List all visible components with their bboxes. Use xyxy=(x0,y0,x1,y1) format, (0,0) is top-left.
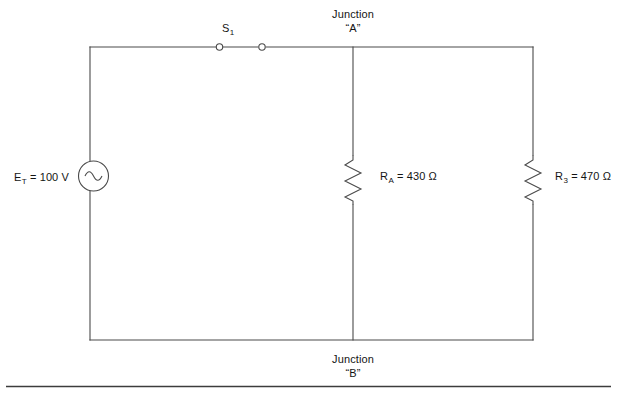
ac-source-sine-icon xyxy=(85,172,102,181)
junction-a-letter: “A” xyxy=(303,21,403,35)
switch-designator-subscript: 1 xyxy=(229,28,234,37)
resistor-a-zigzag-symbol xyxy=(345,155,361,205)
resistor-a-designator: R xyxy=(380,170,388,182)
junction-b-name: Junction xyxy=(303,352,403,366)
resistor-b-designator: R xyxy=(555,170,563,182)
resistor-b-designator-subscript: 3 xyxy=(563,176,568,185)
circuit-schematic-svg xyxy=(0,0,617,402)
circuit-diagram: Junction “A” Junction “B” S1 ET = 100 V … xyxy=(0,0,617,402)
resistor-a-equals: = xyxy=(394,170,407,182)
switch-terminal-right-icon[interactable] xyxy=(259,44,265,50)
resistor-b-zigzag-symbol xyxy=(525,155,541,205)
source-equals: = xyxy=(27,171,40,183)
resistor-a-designator-subscript: A xyxy=(388,176,394,185)
junction-a-label: Junction “A” xyxy=(303,7,403,35)
source-value-label: ET = 100 V xyxy=(14,170,69,184)
resistor-a-value: 430 Ω xyxy=(407,170,437,182)
source-designator-subscript: T xyxy=(21,177,26,186)
resistor-b-equals: = xyxy=(568,170,581,182)
switch-designator-label: S1 xyxy=(222,21,234,35)
junction-b-label: Junction “B” xyxy=(303,352,403,380)
source-value: 100 V xyxy=(40,171,69,183)
resistor-a-value-label: RA = 430 Ω xyxy=(380,169,437,183)
junction-a-name: Junction xyxy=(303,7,403,21)
junction-b-letter: “B” xyxy=(303,366,403,380)
switch-terminal-left-icon[interactable] xyxy=(216,44,222,50)
resistor-b-value: 470 Ω xyxy=(581,170,611,182)
resistor-b-value-label: R3 = 470 Ω xyxy=(555,169,611,183)
